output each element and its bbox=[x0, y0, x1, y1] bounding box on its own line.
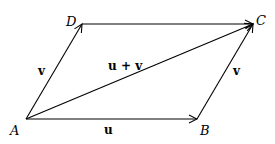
parallelogram-diagram: A B C D u v v u + v bbox=[0, 0, 275, 144]
vector-label-u: u bbox=[104, 124, 113, 136]
vector-label-sum: u + v bbox=[108, 60, 142, 72]
point-label-d: D bbox=[66, 15, 76, 28]
point-label-a: A bbox=[10, 124, 19, 137]
vector-label-v-right: v bbox=[233, 65, 240, 77]
vector-label-v-left: v bbox=[38, 65, 45, 77]
vector-v-BC bbox=[197, 24, 253, 119]
point-label-c: C bbox=[256, 14, 266, 27]
point-label-b: B bbox=[200, 124, 210, 137]
vector-v-AD bbox=[26, 24, 82, 119]
